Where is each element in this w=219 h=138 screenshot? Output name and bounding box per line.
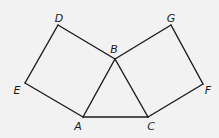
vertex-label-e: E	[14, 84, 21, 97]
vertex-label-c: C	[147, 120, 155, 133]
vertex-labels-group: ABCDEFG	[14, 12, 212, 133]
geometry-diagram: ABCDEFG	[0, 0, 219, 138]
segment-EA	[25, 83, 83, 117]
segment-FC	[148, 84, 203, 117]
vertex-label-f: F	[205, 84, 212, 97]
segment-BG	[115, 25, 171, 59]
segment-DE	[25, 25, 58, 83]
segment-AB	[83, 59, 115, 117]
segment-BD	[58, 25, 115, 59]
segment-BC	[115, 59, 148, 117]
edges-group	[25, 25, 203, 117]
vertex-label-a: A	[73, 120, 82, 133]
vertex-label-d: D	[55, 12, 63, 25]
segment-GF	[171, 25, 203, 84]
vertex-label-g: G	[167, 12, 176, 25]
vertex-label-b: B	[110, 43, 118, 56]
